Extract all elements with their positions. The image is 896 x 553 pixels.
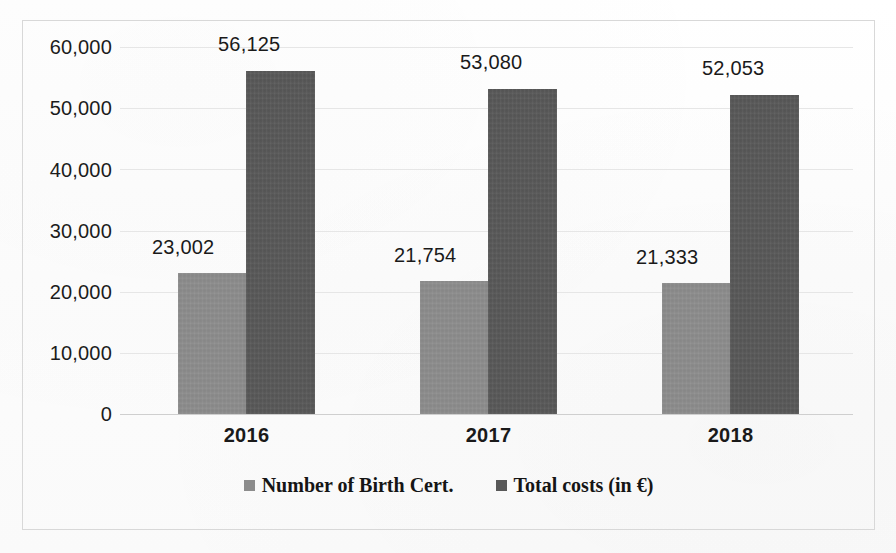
x-axis-label-2017: 2017 <box>420 424 557 447</box>
bar-group-2018 <box>662 47 799 414</box>
y-axis: 60,000 50,000 40,000 30,000 20,000 10,00… <box>0 0 112 553</box>
y-tick-label-60000: 60,000 <box>16 36 112 59</box>
bar-texture <box>420 281 488 414</box>
bar-2017-number-of-birth-cert[interactable] <box>420 281 488 414</box>
bar-2016-number-of-birth-cert[interactable] <box>178 273 246 414</box>
chart-page: 60,000 50,000 40,000 30,000 20,000 10,00… <box>0 0 896 553</box>
plot-area <box>120 47 853 414</box>
bar-2016-total-costs[interactable] <box>246 71 315 414</box>
bar-2018-number-of-birth-cert[interactable] <box>662 283 730 414</box>
bar-texture <box>662 283 730 414</box>
bar-group-2016 <box>178 47 315 414</box>
legend-swatch-icon-light <box>244 480 255 491</box>
y-tick-label-30000: 30,000 <box>16 220 112 243</box>
bar-2018-total-costs[interactable] <box>730 95 799 414</box>
data-label-2016-number-of-birth-cert: 23,002 <box>152 236 214 259</box>
legend-swatch-icon-dark <box>496 480 507 491</box>
y-tick-label-20000: 20,000 <box>16 281 112 304</box>
y-tick-label-10000: 10,000 <box>16 342 112 365</box>
x-axis-baseline <box>120 414 853 415</box>
legend-item-number-of-birth-cert[interactable]: Number of Birth Cert. <box>244 474 454 497</box>
x-axis-label-2016: 2016 <box>178 424 315 447</box>
data-label-2017-total-costs: 53,080 <box>460 51 522 74</box>
chart-legend: Number of Birth Cert. Total costs (in €) <box>22 474 875 497</box>
bar-texture <box>488 89 557 414</box>
data-label-2016-total-costs: 56,125 <box>218 33 280 56</box>
data-label-2017-number-of-birth-cert: 21,754 <box>394 244 456 267</box>
data-label-2018-number-of-birth-cert: 21,333 <box>636 246 698 269</box>
bar-2017-total-costs[interactable] <box>488 89 557 414</box>
legend-item-total-costs[interactable]: Total costs (in €) <box>496 474 654 497</box>
legend-label-total-costs: Total costs (in €) <box>514 474 654 497</box>
y-tick-label-40000: 40,000 <box>16 159 112 182</box>
bar-texture <box>178 273 246 414</box>
legend-label-number-of-birth-cert: Number of Birth Cert. <box>262 474 454 497</box>
data-label-2018-total-costs: 52,053 <box>702 57 764 80</box>
bar-group-2017 <box>420 47 557 414</box>
y-tick-label-50000: 50,000 <box>16 97 112 120</box>
bar-texture <box>730 95 799 414</box>
bar-texture <box>246 71 315 414</box>
x-axis-label-2018: 2018 <box>662 424 799 447</box>
y-tick-label-0: 0 <box>16 403 112 426</box>
